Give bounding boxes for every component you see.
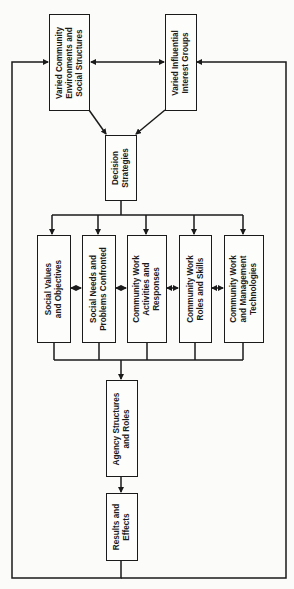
node-label: Social Needs and Problems Confronted	[89, 247, 109, 331]
node-community-environments: Varied Community Environments and Social…	[49, 14, 90, 111]
node-label: Varied Influential Interest Groups	[171, 30, 191, 96]
node-label: Results and Effects	[112, 504, 132, 550]
node-work-roles: Community Work Roles and Skills	[179, 235, 212, 343]
node-label: Varied Community Environments and Social…	[55, 27, 85, 99]
node-work-activities: Community Work Activities and Responses	[127, 235, 167, 343]
node-social-needs: Social Needs and Problems Confronted	[82, 235, 116, 343]
node-label: Community Work and Management Technologi…	[229, 255, 259, 323]
node-agency-structures: Agency Structures and Roles	[106, 380, 138, 477]
node-work-technologies: Community Work and Management Technologi…	[224, 235, 264, 343]
node-label: Social Values and Objectives	[44, 260, 64, 318]
node-label: Agency Structures and Roles	[112, 392, 132, 465]
flow-diagram: Varied Community Environments and Social…	[0, 0, 294, 589]
node-interest-groups: Varied Influential Interest Groups	[165, 14, 197, 111]
node-label: Community Work Roles and Skills	[186, 255, 206, 323]
node-social-values: Social Values and Objectives	[37, 235, 71, 343]
node-label: Decision Strategies	[111, 148, 131, 188]
node-decision-strategies: Decision Strategies	[105, 135, 137, 201]
node-results-effects: Results and Effects	[106, 493, 138, 561]
node-label: Community Work Activities and Responses	[132, 255, 162, 323]
